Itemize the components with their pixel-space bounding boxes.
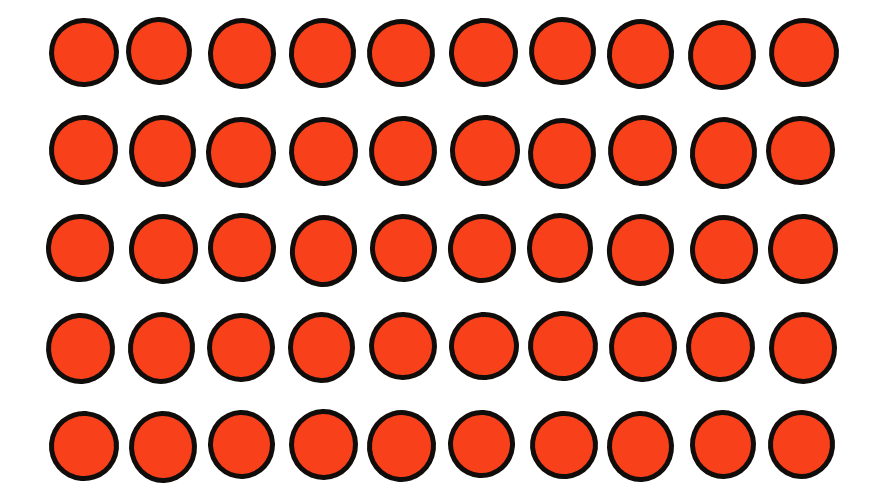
circle-dot: [48, 17, 119, 87]
circle-row: [0, 410, 890, 486]
circle-dot: [768, 311, 838, 384]
circle-dot: [606, 410, 675, 483]
circle-dot: [685, 17, 759, 93]
circle-dot: [607, 310, 678, 383]
circle-row: [0, 116, 890, 192]
circle-row: [0, 312, 890, 388]
circle-dot: [206, 312, 275, 382]
circle-dot: [128, 114, 198, 188]
circle-dot: [288, 311, 355, 382]
circle-dot: [207, 409, 277, 481]
circle-dot: [604, 211, 678, 289]
circle-dot: [288, 408, 358, 480]
circle-dot: [363, 16, 438, 92]
circle-dot: [285, 211, 360, 291]
circle-dot: [689, 409, 758, 480]
circle-dot: [603, 16, 678, 93]
circle-dot: [605, 112, 680, 189]
circle-dot: [766, 212, 840, 286]
circle-dot: [363, 406, 440, 485]
circle-dot: [205, 116, 277, 189]
circle-dot: [765, 14, 843, 91]
circle-dot: [368, 212, 439, 283]
circle-dot: [684, 311, 756, 384]
circle-dot: [446, 15, 521, 91]
circle-dot: [367, 114, 439, 188]
circle-dot: [285, 14, 361, 92]
circle-dot: [526, 212, 593, 283]
circle-dot: [44, 212, 117, 285]
circle-dot: [368, 311, 437, 380]
circle-row: [0, 18, 890, 94]
circle-row: [0, 214, 890, 290]
circle-dot: [444, 210, 521, 287]
circle-dot: [446, 309, 522, 383]
circle-dot: [527, 408, 601, 481]
circle-dot: [47, 408, 122, 483]
circle-dot: [44, 311, 117, 386]
circle-dot: [128, 409, 198, 483]
circle-dot: [287, 115, 360, 187]
circle-dot: [765, 407, 839, 482]
circle-dot: [526, 309, 601, 384]
image-canvas: [0, 0, 890, 501]
circle-dot: [207, 17, 278, 90]
circle-dot: [765, 115, 836, 186]
circle-dot: [125, 309, 199, 387]
circle-dot: [206, 212, 277, 285]
circle-dot: [125, 211, 201, 288]
circle-dot: [526, 14, 599, 89]
circle-dot: [445, 407, 517, 480]
circle-dot: [686, 114, 761, 193]
circle-dot: [46, 113, 121, 188]
circle-grid: [0, 0, 890, 501]
circle-dot: [448, 113, 522, 188]
circle-dot: [125, 16, 194, 87]
circle-dot: [527, 116, 598, 190]
circle-dot: [686, 212, 760, 288]
